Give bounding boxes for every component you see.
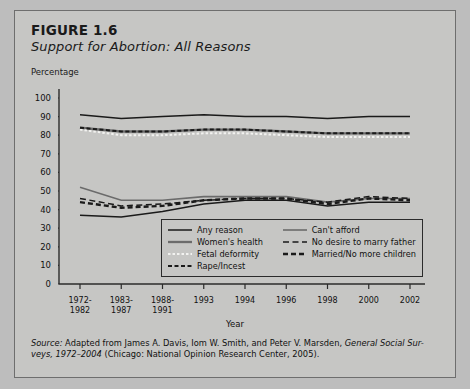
legend-label: Women's health [197, 237, 263, 247]
legend-swatch-icon [168, 261, 192, 271]
legend-item: Any reason [168, 224, 283, 236]
y-tick-label: 50 [27, 186, 51, 196]
legend-label: Fetal deformity [197, 249, 259, 259]
legend-label: Married/No more children [312, 249, 416, 259]
source-text-2: (Chicago: National Opinion Research Cent… [102, 349, 319, 359]
data-series-line [80, 197, 410, 206]
figure-container: FIGURE 1.6 Support for Abortion: All Rea… [14, 10, 456, 378]
x-tick-label: 1988-1991 [140, 296, 186, 315]
legend-swatch-icon [283, 249, 307, 259]
source-text-1: Adapted from James A. Davis, Iom W. Smit… [62, 338, 344, 348]
y-tick-label: 0 [27, 279, 51, 289]
x-tick-label: 1998 [305, 296, 351, 306]
y-tick-label: 20 [27, 242, 51, 252]
y-tick-label: 30 [27, 223, 51, 233]
y-axis-label: Percentage [31, 67, 79, 77]
figure-number: FIGURE 1.6 [31, 23, 431, 38]
legend-column-right: Can't affordNo desire to marry fatherMar… [283, 224, 416, 272]
y-tick-label: 80 [27, 130, 51, 140]
legend-label: Any reason [197, 225, 243, 235]
legend-item: No desire to marry father [283, 236, 416, 248]
x-tick-label: 1983-1987 [98, 296, 144, 315]
y-tick-label: 70 [27, 149, 51, 159]
legend-item: Married/No more children [283, 248, 416, 260]
x-tick-marks [80, 284, 410, 289]
legend-label: No desire to marry father [312, 237, 416, 247]
y-tick-label: 60 [27, 167, 51, 177]
data-series-line [80, 115, 410, 119]
x-tick-label: 1972-1982 [57, 296, 103, 315]
x-tick-label: 1993 [181, 296, 227, 306]
legend-item: Rape/Incest [168, 260, 283, 272]
legend-swatch-icon [168, 237, 192, 247]
data-series-line [80, 200, 410, 217]
legend-label: Rape/Incest [197, 261, 245, 271]
source-italic-1: General Social Sur- [345, 338, 424, 348]
figure-title-block: FIGURE 1.6 Support for Abortion: All Rea… [31, 23, 431, 55]
legend-item: Can't afford [283, 224, 416, 236]
legend-swatch-icon [168, 249, 192, 259]
figure-subtitle: Support for Abortion: All Reasons [31, 39, 431, 55]
legend-swatch-icon [283, 237, 307, 247]
legend-label: Can't afford [312, 225, 360, 235]
source-citation: Source: Adapted from James A. Davis, Iom… [31, 338, 441, 360]
y-tick-label: 40 [27, 205, 51, 215]
x-tick-label: 1994 [222, 296, 268, 306]
x-tick-label: 2002 [387, 296, 433, 306]
legend-swatch-icon [168, 225, 192, 235]
legend-item: Women's health [168, 236, 283, 248]
legend-item: Fetal deformity [168, 248, 283, 260]
source-label: Source: [31, 338, 62, 348]
x-tick-label: 2000 [346, 296, 392, 306]
x-axis-label: Year [15, 319, 455, 329]
source-italic-2: veys, 1972–2004 [31, 349, 102, 359]
y-tick-label: 10 [27, 260, 51, 270]
legend-column-left: Any reasonWomen's healthFetal deformityR… [168, 224, 283, 272]
data-series-group [80, 115, 410, 217]
x-tick-label: 1996 [263, 296, 309, 306]
legend-swatch-icon [283, 225, 307, 235]
y-tick-label: 100 [27, 93, 51, 103]
chart-legend: Any reasonWomen's healthFetal deformityR… [161, 219, 423, 277]
y-tick-label: 90 [27, 112, 51, 122]
